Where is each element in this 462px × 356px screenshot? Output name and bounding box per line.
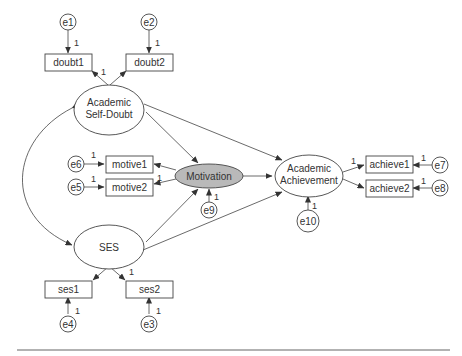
error-e2: e2 (141, 14, 157, 30)
path-selfdoubt-achievement (144, 104, 282, 160)
observed-motive2: motive2 (106, 179, 153, 196)
error-e5: e5 (68, 179, 84, 195)
observed-doubt1: doubt1 (45, 54, 92, 71)
svg-text:e8: e8 (434, 183, 446, 194)
error-e1: e1 (60, 14, 76, 30)
svg-text:doubt2: doubt2 (134, 57, 165, 68)
svg-text:1: 1 (351, 156, 356, 166)
svg-text:1: 1 (91, 150, 96, 160)
error-e9: e9 (201, 202, 217, 218)
svg-text:1: 1 (155, 38, 160, 48)
error-e7: e7 (432, 157, 448, 173)
path-selfdoubt-motivation (146, 112, 198, 163)
svg-text:1: 1 (129, 267, 134, 277)
observed-ses1: ses1 (45, 281, 92, 298)
covariance-selfdoubt-ses (22, 108, 72, 245)
error-e3: e3 (141, 316, 157, 332)
svg-text:motive1: motive1 (112, 159, 147, 170)
svg-text:Academic: Academic (287, 163, 331, 174)
svg-text:1: 1 (312, 201, 317, 211)
svg-text:e4: e4 (62, 319, 74, 330)
path-ses-motivation (146, 189, 198, 242)
svg-text:Academic: Academic (87, 97, 131, 108)
svg-text:e2: e2 (143, 17, 155, 28)
path-motivation-motive1 (154, 164, 176, 170)
path-ses-achievement (143, 192, 282, 250)
observed-achieve2: achieve2 (366, 180, 413, 197)
svg-text:Achievement: Achievement (280, 175, 338, 186)
svg-text:Motivation: Motivation (186, 171, 232, 182)
path-achievement-achieve1 (343, 165, 364, 172)
svg-text:SES: SES (99, 242, 119, 253)
observed-ses2: ses2 (126, 281, 173, 298)
error-e8: e8 (432, 180, 448, 196)
observed-doubt2: doubt2 (126, 54, 173, 71)
error-e10: e10 (297, 210, 319, 232)
svg-text:1: 1 (157, 173, 162, 183)
svg-text:1: 1 (421, 176, 426, 186)
svg-text:1: 1 (91, 174, 96, 184)
path-achievement-achieve2 (343, 179, 364, 188)
svg-text:e7: e7 (434, 160, 446, 171)
latent-ses: SES (74, 225, 144, 269)
latent-academic-achievement: Academic Achievement (275, 155, 343, 197)
svg-text:Self-Doubt: Self-Doubt (85, 109, 132, 120)
svg-text:e9: e9 (203, 205, 215, 216)
svg-text:motive2: motive2 (112, 182, 147, 193)
svg-text:e3: e3 (143, 319, 155, 330)
observed-motive1: motive1 (106, 156, 153, 173)
svg-text:1: 1 (214, 192, 219, 202)
error-e4: e4 (60, 316, 76, 332)
svg-text:1: 1 (101, 67, 106, 77)
sem-diagram: e1 e2 e6 e5 e9 e10 e7 e8 e4 e3 doubt1 do… (0, 0, 462, 356)
svg-text:e6: e6 (70, 159, 82, 170)
svg-text:achieve2: achieve2 (369, 183, 409, 194)
svg-text:e10: e10 (300, 216, 317, 227)
latent-motivation: Motivation (175, 164, 243, 188)
latent-academic-self-doubt: Academic Self-Doubt (74, 85, 144, 135)
path-selfdoubt-doubt2 (110, 71, 126, 85)
svg-text:1: 1 (74, 38, 79, 48)
svg-text:1: 1 (75, 306, 80, 316)
svg-text:1: 1 (156, 306, 161, 316)
svg-text:doubt1: doubt1 (53, 57, 84, 68)
svg-text:achieve1: achieve1 (369, 159, 409, 170)
svg-text:ses2: ses2 (139, 284, 161, 295)
svg-text:e5: e5 (70, 182, 82, 193)
error-e6: e6 (68, 156, 84, 172)
path-weights: 1 1 1 1 1 1 1 1 1 1 1 1 1 1 (74, 38, 426, 316)
svg-text:e1: e1 (62, 17, 74, 28)
observed-achieve1: achieve1 (366, 156, 413, 173)
svg-text:1: 1 (421, 153, 426, 163)
svg-text:ses1: ses1 (58, 284, 80, 295)
